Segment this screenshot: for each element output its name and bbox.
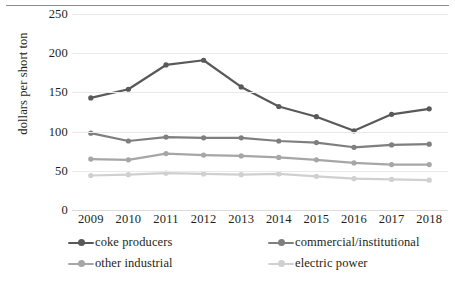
data-point [389, 142, 394, 147]
data-point [239, 135, 244, 140]
data-point [314, 174, 319, 179]
plot-area [72, 14, 448, 210]
data-point [389, 162, 394, 167]
gridline-150 [72, 92, 448, 93]
y-axis-tick-labels: 250200150100500 [26, 14, 68, 210]
data-point [239, 172, 244, 177]
data-point [314, 157, 319, 162]
data-point [88, 156, 93, 161]
data-point [88, 95, 93, 100]
y-tick-label-100: 100 [26, 124, 68, 139]
data-point [239, 153, 244, 158]
chart-legend: coke producerscommercial/institutionalot… [60, 234, 450, 280]
legend-item-electric-power[interactable]: electric power [268, 255, 368, 272]
series-commercial-institutional [88, 131, 432, 150]
data-point [276, 138, 281, 143]
legend-label: coke producers [95, 235, 172, 250]
y-tick-label-200: 200 [26, 46, 68, 61]
data-point [126, 172, 131, 177]
x-tick-label-2016: 2016 [341, 212, 367, 227]
series-line [91, 173, 429, 180]
data-point [126, 157, 131, 162]
x-tick-label-2017: 2017 [379, 212, 405, 227]
series-electric-power [88, 171, 432, 183]
legend-label: electric power [295, 256, 368, 271]
data-point [389, 177, 394, 182]
series-line [91, 154, 429, 165]
y-tick-label-0: 0 [26, 203, 68, 218]
x-tick-label-2009: 2009 [78, 212, 104, 227]
data-point [126, 87, 131, 92]
y-tick-label-250: 250 [26, 7, 68, 22]
x-tick-label-2018: 2018 [416, 212, 442, 227]
data-point [427, 142, 432, 147]
data-point [427, 106, 432, 111]
gridline-50 [72, 171, 448, 172]
data-point [351, 176, 356, 181]
data-point [276, 171, 281, 176]
legend-label: other industrial [95, 256, 173, 271]
data-point [351, 145, 356, 150]
y-tick-label-150: 150 [26, 85, 68, 100]
data-point [201, 153, 206, 158]
legend-label: commercial/institutional [295, 235, 420, 250]
legend-swatch-icon [68, 259, 94, 269]
series-other-industrial [88, 151, 432, 167]
legend-item-commercial-institutional[interactable]: commercial/institutional [268, 234, 420, 251]
legend-item-other-industrial[interactable]: other industrial [68, 255, 173, 272]
gridline-0 [72, 210, 448, 211]
data-point [314, 140, 319, 145]
data-point [389, 112, 394, 117]
data-point [239, 84, 244, 89]
data-point [88, 173, 93, 178]
series-coke-producers [88, 58, 432, 134]
x-tick-label-2013: 2013 [228, 212, 254, 227]
data-point [163, 134, 168, 139]
series-layer [72, 14, 448, 210]
x-tick-label-2014: 2014 [266, 212, 292, 227]
x-tick-label-2012: 2012 [191, 212, 217, 227]
chart-figure: dollars per short ton 250200150100500 20… [0, 0, 455, 284]
data-point [126, 138, 131, 143]
data-point [276, 104, 281, 109]
data-point [427, 178, 432, 183]
data-point [314, 114, 319, 119]
gridline-250 [72, 14, 448, 15]
data-point [163, 151, 168, 156]
data-point [427, 162, 432, 167]
data-point [276, 155, 281, 160]
data-point [201, 171, 206, 176]
x-tick-label-2011: 2011 [153, 212, 178, 227]
legend-swatch-icon [268, 259, 294, 269]
series-line [91, 60, 429, 131]
x-tick-label-2015: 2015 [303, 212, 329, 227]
plot-wrapper: dollars per short ton 250200150100500 [0, 14, 455, 210]
data-point [163, 62, 168, 67]
legend-swatch-icon [268, 238, 294, 248]
x-axis-tick-labels: 2009201020112012201320142015201620172018 [72, 212, 448, 230]
gridline-200 [72, 53, 448, 54]
x-tick-label-2010: 2010 [115, 212, 141, 227]
top-divider-rule [6, 5, 449, 6]
data-point [351, 160, 356, 165]
y-tick-label-50: 50 [26, 163, 68, 178]
legend-item-coke-producers[interactable]: coke producers [68, 234, 172, 251]
series-line [91, 133, 429, 147]
gridline-100 [72, 132, 448, 133]
data-point [201, 58, 206, 63]
legend-swatch-icon [68, 238, 94, 248]
data-point [201, 135, 206, 140]
